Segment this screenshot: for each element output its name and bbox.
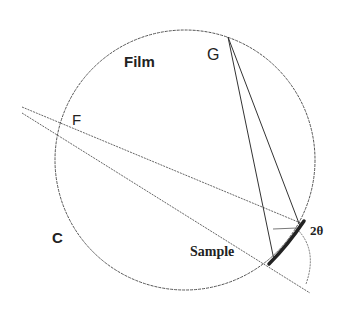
label-f: F: [72, 111, 81, 128]
sample-surface: [269, 221, 304, 264]
two-theta-arc: [297, 229, 310, 284]
label-two-theta: 2θ: [310, 223, 324, 238]
angle-connector: [273, 228, 297, 229]
focusing-circle: [55, 30, 315, 290]
label-g: G: [207, 46, 219, 63]
label-sample: Sample: [190, 244, 234, 259]
label-film: Film: [124, 53, 155, 70]
diffracted-ray-lower: [228, 37, 274, 260]
xrd-camera-diagram: Film G F C Sample 2θ: [0, 0, 346, 319]
label-c: C: [52, 229, 63, 246]
